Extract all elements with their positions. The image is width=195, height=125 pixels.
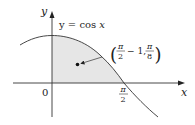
svg-text:8: 8: [147, 52, 152, 61]
x-axis-arrow-icon: [178, 81, 185, 86]
svg-text:− 1,: − 1,: [127, 46, 146, 56]
svg-text:π: π: [117, 42, 124, 51]
svg-text:π: π: [120, 85, 127, 94]
svg-text:2: 2: [118, 52, 123, 61]
x-axis-label: x: [181, 86, 188, 99]
cosine-centroid-diagram: y x 0 y = cos x π 2 ( π 2 − 1, π 8 ): [0, 0, 195, 125]
y-axis-label: y: [40, 5, 48, 18]
curve-label: y = cos x: [58, 19, 105, 30]
svg-text:(: (: [110, 44, 117, 65]
svg-text:π: π: [146, 42, 153, 51]
centroid-coordinate-label: ( π 2 − 1, π 8 ): [110, 42, 162, 65]
tick-label-pi-over-2: π 2: [119, 85, 128, 104]
svg-text:): ): [155, 44, 162, 65]
svg-text:2: 2: [121, 95, 126, 104]
centroid-point: [76, 63, 80, 67]
y-axis-arrow-icon: [50, 11, 55, 18]
origin-label: 0: [42, 87, 48, 98]
